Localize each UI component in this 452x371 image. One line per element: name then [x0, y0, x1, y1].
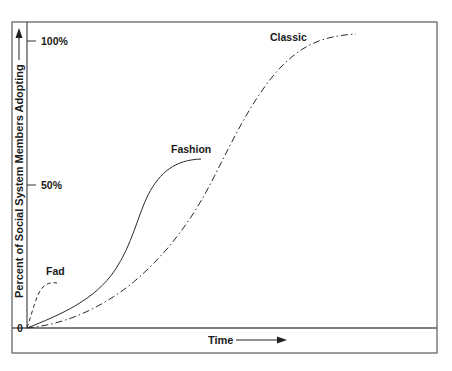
classic-label: Classic: [270, 31, 307, 43]
outer-frame: [12, 22, 437, 353]
tick-label-0: 0: [17, 322, 23, 334]
classic-curve: [27, 34, 356, 328]
y-axis-arrow-head-icon: [16, 28, 23, 38]
fad-curve: [27, 283, 57, 328]
adoption-curves-diagram: 100% 50% 0 Percent of Social System Memb…: [0, 0, 452, 371]
fashion-label: Fashion: [171, 143, 211, 155]
x-axis-arrow-head-icon: [277, 337, 287, 344]
tick-label-50: 50%: [41, 179, 63, 191]
x-axis-label: Time: [208, 334, 233, 346]
y-axis-label: Percent of Social System Members Adoptin…: [13, 64, 25, 298]
fad-label: Fad: [46, 265, 65, 277]
tick-label-100: 100%: [41, 35, 69, 47]
